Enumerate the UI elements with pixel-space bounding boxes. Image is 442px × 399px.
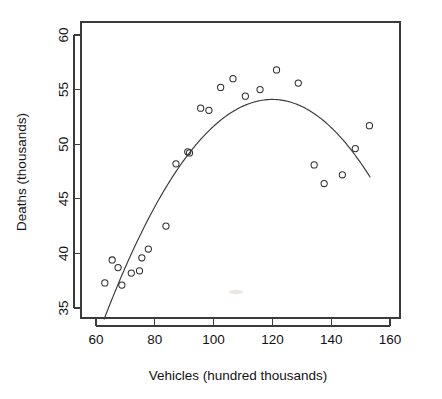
scatter-point [136,268,142,274]
scatter-plot-svg: 354045505560 6080100120140160 Vehicles (… [0,0,442,399]
scatter-point [145,246,151,252]
x-axis-tick-label: 100 [202,332,225,347]
y-axis-tick-label: 60 [56,27,71,42]
y-axis-tick-group: 354045505560 [56,27,81,315]
scatter-point [273,67,279,73]
scatter-point [242,93,248,99]
scatter-point [218,84,224,90]
x-axis-title: Vehicles (hundred thousands) [149,368,328,383]
scatter-point [339,172,345,178]
scatter-point-group [102,67,373,288]
scatter-point [139,255,145,261]
scatter-point [321,180,327,186]
y-axis-tick-label: 55 [56,82,71,97]
fitted-quadratic-curve [104,99,370,318]
y-axis-tick-label: 45 [56,191,71,206]
scatter-point [295,80,301,86]
x-axis-tick-label: 80 [147,332,162,347]
scatter-point [311,162,317,168]
scatter-point [128,270,134,276]
y-axis-tick-label: 40 [56,246,71,261]
scatter-point [366,123,372,129]
scatter-point [173,161,179,167]
scatter-point [102,280,108,286]
x-axis-tick-label: 140 [320,332,343,347]
scan-smudge [229,290,243,294]
scatter-point [198,105,204,111]
x-axis-tick-group: 6080100120140160 [88,319,401,347]
x-axis-tick-label: 60 [88,332,103,347]
y-axis-tick-label: 35 [56,300,71,315]
scatter-point [119,282,125,288]
y-axis-tick-label: 50 [56,137,71,152]
scatter-point [352,145,358,151]
scatter-point [115,265,121,271]
scatter-point [206,107,212,113]
scatter-point [230,76,236,82]
chart-figure: 354045505560 6080100120140160 Vehicles (… [0,0,442,399]
x-axis-tick-label: 120 [261,332,284,347]
scatter-point [163,223,169,229]
y-axis-title: Deaths (thousands) [14,113,29,231]
scatter-point [109,257,115,263]
plot-box-frame [81,22,400,318]
scatter-point [257,87,263,93]
x-axis-tick-label: 160 [379,332,402,347]
